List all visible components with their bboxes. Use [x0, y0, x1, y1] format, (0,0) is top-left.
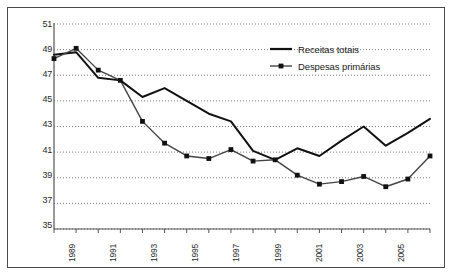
data-point-marker — [339, 179, 344, 184]
data-point-marker — [96, 68, 101, 73]
x-tick-label: 1991 — [108, 244, 118, 262]
x-tick-label: 1995 — [190, 244, 200, 262]
data-point-marker — [206, 156, 211, 161]
data-point-marker — [361, 174, 366, 179]
data-point-marker — [162, 141, 167, 146]
chart-figure: 51 49 47 45 43 41 39 37 35 1989 1991 199… — [0, 0, 454, 275]
chart-frame: 51 49 47 45 43 41 39 37 35 1989 1991 199… — [7, 7, 445, 268]
x-tick-label: 2001 — [314, 244, 324, 262]
data-point-marker — [383, 184, 388, 189]
y-tick-label: 39 — [32, 170, 52, 180]
y-tick-label: 49 — [32, 44, 52, 54]
data-point-marker — [251, 159, 256, 164]
data-point-marker — [428, 154, 433, 159]
y-tick-label: 41 — [32, 145, 52, 155]
data-point-marker — [405, 177, 410, 182]
y-tick-label: 43 — [32, 119, 52, 129]
data-point-marker — [273, 157, 278, 162]
x-tick-label: 1993 — [149, 244, 159, 262]
x-tick-label: 1997 — [231, 244, 241, 262]
data-point-marker — [317, 182, 322, 187]
x-tick-label: 1989 — [67, 244, 77, 262]
legend-swatch-despesas-marker — [279, 64, 284, 69]
line-chart-plot — [8, 8, 446, 269]
x-tick-label: 1999 — [273, 244, 283, 262]
y-tick-label: 45 — [32, 94, 52, 104]
y-tick-label: 51 — [32, 19, 52, 29]
data-point-marker — [184, 154, 189, 159]
y-tick-label: 35 — [32, 220, 52, 230]
data-point-marker — [229, 147, 234, 152]
data-point-marker — [74, 46, 79, 51]
legend-label-receitas: Receitas totais — [298, 44, 359, 55]
legend-label-despesas: Despesas primárias — [298, 61, 380, 72]
data-point-marker — [52, 56, 57, 61]
y-tick-label: 47 — [32, 69, 52, 79]
data-point-marker — [140, 119, 145, 124]
x-tick-label: 2005 — [396, 244, 406, 262]
data-point-marker — [295, 173, 300, 178]
y-tick-label: 37 — [32, 195, 52, 205]
x-tick-label: 2003 — [355, 244, 365, 262]
data-point-marker — [118, 78, 123, 83]
